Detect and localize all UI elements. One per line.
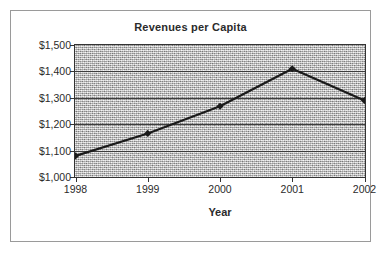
x-axis-tick-label: 1998 — [46, 183, 106, 195]
y-axis-tick-label: $1,300 — [23, 92, 71, 104]
chart-title: Revenues per Capita — [11, 21, 370, 33]
y-axis-tick-label: $1,000 — [23, 171, 71, 183]
x-axis-tick-label: 1999 — [118, 183, 178, 195]
y-axis-tick-label: $1,200 — [23, 118, 71, 130]
y-axis-tick-label: $1,100 — [23, 145, 71, 157]
x-axis-tick-label: 2000 — [190, 183, 250, 195]
x-axis-title: Year — [74, 206, 366, 218]
plot-area — [74, 44, 366, 178]
x-axis-tick-label: 2002 — [335, 183, 385, 195]
y-axis-tick-labels: $1,000$1,100$1,200$1,300$1,400$1,500 — [19, 44, 71, 178]
x-axis-tick-label: 2001 — [262, 183, 322, 195]
chart-frame: Revenues per Capita $1,000$1,100$1,200$1… — [10, 10, 371, 242]
x-axis-tick-marks — [74, 178, 366, 183]
data-series-line — [75, 45, 365, 177]
x-axis-tick-labels: 19981999200020012002 — [74, 183, 366, 199]
y-axis-tick-label: $1,500 — [23, 39, 71, 51]
y-axis-tick-marks — [70, 44, 75, 178]
y-axis-tick-label: $1,400 — [23, 65, 71, 77]
